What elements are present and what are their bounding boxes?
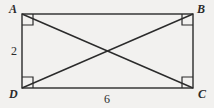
- vertex-label-a: A: [9, 3, 17, 15]
- geometry-diagram: A B C D 2 6: [0, 0, 214, 108]
- vertex-label-d: D: [9, 88, 18, 100]
- side-length-label-height: 2: [11, 45, 17, 57]
- vertex-label-c: C: [198, 88, 206, 100]
- vertex-label-b: B: [197, 3, 205, 15]
- side-length-label-width: 6: [104, 93, 110, 105]
